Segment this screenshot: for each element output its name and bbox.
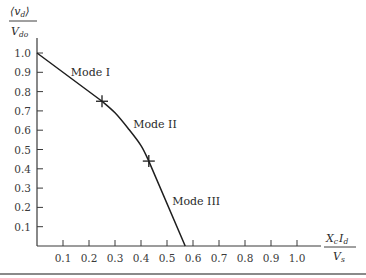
mode-labels: Mode IMode IIMode III [71, 66, 220, 208]
x-tick-label: 0.3 [107, 252, 124, 264]
svg-text:Vdo: Vdo [11, 25, 29, 39]
y-tick-label: 0.2 [14, 201, 31, 213]
x-tick-label: 0.1 [55, 252, 72, 264]
y-tick-label: 1.0 [14, 47, 31, 59]
bottom-rule [0, 273, 366, 275]
y-tick-label: 0.8 [14, 86, 31, 98]
mode-label: Mode III [172, 195, 220, 208]
y-tick-label: 0.6 [14, 124, 31, 136]
x-tick-label: 0.7 [211, 252, 228, 264]
y-axis-ticks: 0.10.20.30.40.50.60.70.80.91.0 [14, 47, 43, 233]
y-tick-label: 0.3 [14, 182, 31, 194]
x-axis-ticks: 0.10.20.30.40.50.60.70.80.91.0 [55, 240, 306, 264]
x-tick-label: 1.0 [289, 252, 306, 264]
y-tick-label: 0.9 [14, 66, 31, 78]
y-tick-label: 0.7 [14, 105, 31, 117]
y-tick-label: 0.4 [14, 163, 31, 175]
y-axis-title: ⟨vd⟩ Vdo [9, 5, 37, 39]
chart-canvas: 0.10.20.30.40.50.60.70.80.91.0 0.10.20.3… [0, 0, 366, 278]
x-tick-label: 0.2 [81, 252, 98, 264]
svg-text:XcId: XcId [325, 232, 348, 246]
y-tick-label: 0.5 [14, 144, 31, 156]
x-tick-label: 0.5 [159, 252, 176, 264]
mode-label: Mode II [133, 118, 177, 131]
x-tick-label: 0.6 [185, 252, 202, 264]
svg-text:Vs: Vs [333, 250, 345, 264]
x-tick-label: 0.9 [263, 252, 280, 264]
x-tick-label: 0.8 [237, 252, 254, 264]
svg-text:⟨vd⟩: ⟨vd⟩ [10, 5, 30, 19]
x-tick-label: 0.4 [133, 252, 150, 264]
mode-label: Mode I [71, 66, 110, 79]
mode-characteristic-curve [37, 53, 185, 246]
cross-marker-icon [143, 155, 155, 167]
y-tick-label: 0.1 [14, 221, 31, 233]
x-axis-title: XcId Vs [324, 232, 356, 264]
